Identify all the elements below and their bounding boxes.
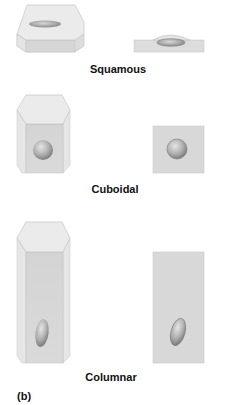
columnar-3d-cell: [17, 222, 70, 363]
label-squamous: Squamous: [90, 63, 146, 75]
squamous-side-cell: [134, 35, 204, 52]
cuboidal-3d-cell: [17, 95, 70, 173]
panel-label: (b): [17, 390, 31, 402]
label-columnar: Columnar: [85, 371, 136, 383]
squamous-nucleus: [29, 21, 61, 28]
label-cuboidal: Cuboidal: [91, 183, 138, 195]
squamous-nucleus-side: [157, 39, 185, 47]
columnar-side-cell: [153, 252, 204, 363]
cuboidal-nucleus-side: [167, 139, 187, 159]
squamous-3d-cell: [17, 5, 84, 52]
epithelium-diagram: [0, 0, 237, 405]
cuboidal-side-cell: [153, 126, 204, 173]
cuboidal-nucleus: [33, 140, 53, 160]
